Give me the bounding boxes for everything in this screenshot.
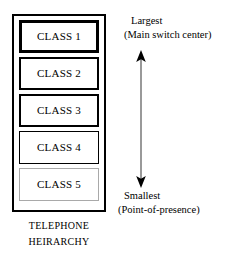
scale-bottom-title: Smallest — [118, 189, 244, 203]
scale-annotation: Largest (Main switch center) Smallest (P… — [118, 14, 244, 230]
caption-line-1: TELEPHONE — [6, 218, 112, 234]
class-box-5: CLASS 5 — [19, 168, 99, 201]
scale-bottom-detail: (Point-of-presence) — [118, 203, 244, 217]
class-box-1-label: CLASS 1 — [37, 31, 81, 42]
class-box-4: CLASS 4 — [19, 131, 99, 164]
class-box-3-label: CLASS 3 — [37, 105, 81, 116]
class-box-2-label: CLASS 2 — [37, 68, 81, 79]
class-box-list: CLASS 1 CLASS 2 CLASS 3 CLASS 4 CLASS 5 — [14, 16, 104, 210]
class-box-1: CLASS 1 — [19, 20, 99, 53]
class-box-2: CLASS 2 — [19, 57, 99, 90]
class-box-5-label: CLASS 5 — [37, 179, 81, 190]
scale-top-detail: (Main switch center) — [118, 28, 244, 42]
scale-bottom-label: Smallest (Point-of-presence) — [118, 189, 244, 217]
class-box-4-label: CLASS 4 — [37, 142, 81, 153]
caption-line-2: HEIRARCHY — [6, 234, 112, 250]
double-headed-arrow-icon — [130, 49, 152, 189]
class-box-3: CLASS 3 — [19, 94, 99, 127]
scale-top-title: Largest — [118, 14, 244, 28]
telephone-hierarchy-diagram: CLASS 1 CLASS 2 CLASS 3 CLASS 4 CLASS 5 … — [0, 0, 244, 273]
hierarchy-outer-container: CLASS 1 CLASS 2 CLASS 3 CLASS 4 CLASS 5 — [12, 14, 106, 212]
diagram-caption: TELEPHONE HEIRARCHY — [6, 218, 112, 250]
scale-top-label: Largest (Main switch center) — [118, 14, 244, 42]
